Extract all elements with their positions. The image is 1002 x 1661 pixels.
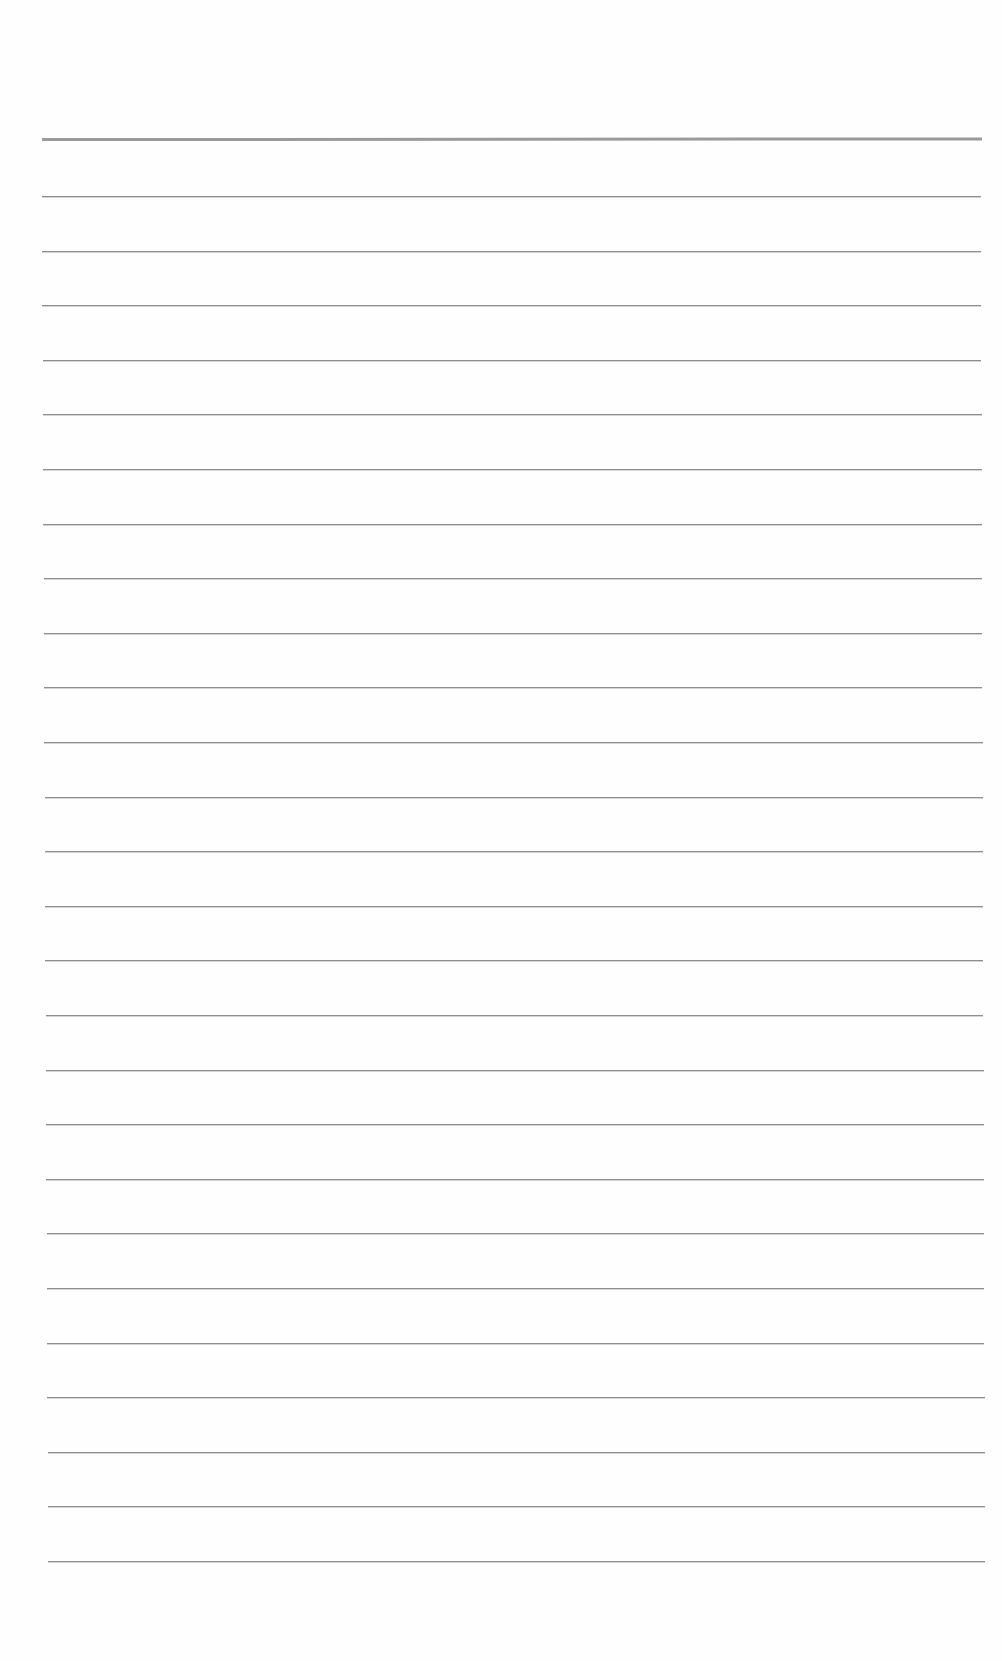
ruled-line (46, 1070, 984, 1072)
ruled-line (46, 1124, 984, 1126)
ruled-line (47, 1397, 984, 1399)
ruled-line (43, 414, 982, 416)
ruled-line (43, 469, 982, 471)
ruled-line (44, 687, 982, 689)
ruled-line (42, 305, 981, 307)
ruled-line (44, 742, 982, 744)
ruled-line (47, 1288, 984, 1290)
ruled-line (45, 797, 983, 799)
ruled-line (48, 1506, 985, 1508)
ruled-line (42, 251, 981, 253)
ruled-line (45, 960, 983, 962)
ruled-line (46, 1015, 984, 1017)
ruled-line (48, 1561, 985, 1563)
ruled-line (43, 360, 982, 362)
ruled-line (44, 578, 982, 580)
ruled-line (48, 1452, 985, 1454)
ruled-line (47, 1233, 984, 1235)
ruled-line (43, 524, 982, 526)
ruled-line (45, 906, 983, 908)
ruled-line (45, 851, 983, 853)
ruled-line (47, 1343, 984, 1345)
notebook-page (0, 0, 1002, 1661)
header-rule (42, 138, 982, 141)
ruled-line (46, 1179, 984, 1181)
ruled-line (44, 633, 982, 635)
ruled-line (42, 196, 981, 198)
